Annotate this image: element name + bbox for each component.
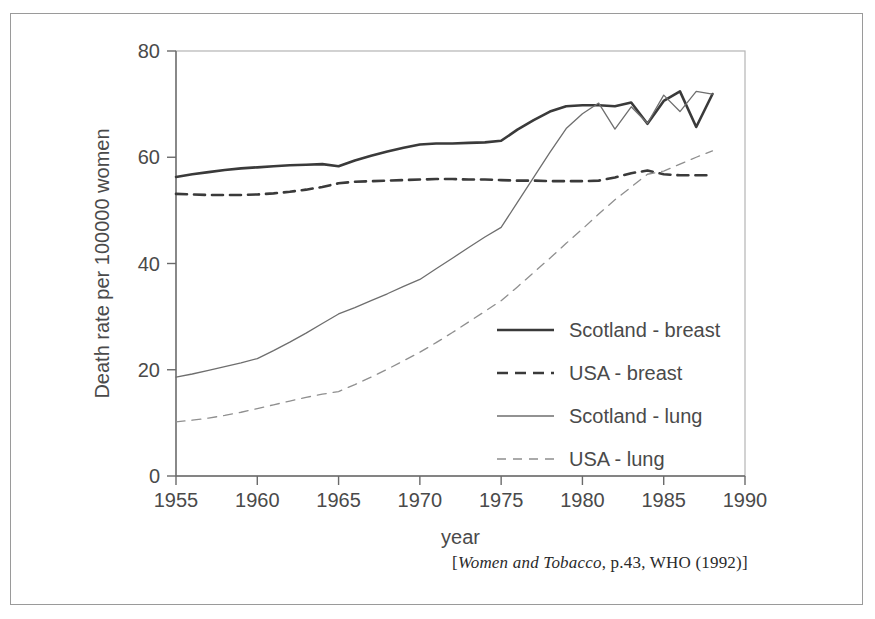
y-tick-label: 40 [138, 253, 160, 275]
citation-source-title: Women and Tobacco [458, 553, 602, 572]
y-axis: 020406080 [138, 40, 176, 487]
x-tick-label: 1975 [479, 489, 524, 511]
citation-note: [Women and Tobacco, p.43, WHO (1992)] [452, 553, 748, 573]
y-tick-label: 60 [138, 146, 160, 168]
y-tick-label: 80 [138, 40, 160, 62]
x-tick-label: 1970 [398, 489, 443, 511]
x-axis: 19551960196519701975198019851990 [154, 476, 768, 511]
x-axis-title: year [441, 526, 480, 548]
y-tick-label: 20 [138, 359, 160, 381]
x-tick-label: 1990 [723, 489, 768, 511]
series-line-usa-breast [176, 171, 712, 195]
x-tick-label: 1955 [154, 489, 199, 511]
x-tick-label: 1965 [316, 489, 361, 511]
legend-label-2: USA - breast [569, 362, 683, 384]
y-tick-label: 0 [149, 465, 160, 487]
citation-details: , p.43, WHO (1992) [602, 553, 742, 572]
line-chart: 020406080 195519601965197019751980198519… [0, 0, 875, 619]
x-tick-label: 1985 [641, 489, 686, 511]
legend-label-3: Scotland - lung [569, 405, 702, 427]
figure-container: 020406080 195519601965197019751980198519… [0, 0, 875, 619]
citation-close-bracket: ] [742, 553, 748, 572]
x-tick-label: 1980 [560, 489, 605, 511]
y-axis-title: Death rate per 100000 women [91, 128, 113, 398]
series-line-scotland-breast [176, 91, 712, 177]
legend-label-1: Scotland - breast [569, 319, 721, 341]
x-tick-label: 1960 [235, 489, 280, 511]
legend-label-4: USA - lung [569, 448, 665, 470]
chart-legend: Scotland - breastUSA - breastScotland - … [497, 319, 721, 470]
